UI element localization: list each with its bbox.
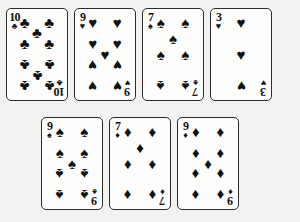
heart-pip-icon: ♥ bbox=[110, 15, 125, 30]
pip-field: ♠♠♠♠♠♠♠ bbox=[156, 14, 190, 95]
corner-index-top-left: 3♥ bbox=[213, 11, 224, 30]
spade-pip-icon: ♠ bbox=[153, 79, 168, 94]
playing-card-7-of-diamonds[interactable]: 7♦7♦♦♦♦♦♦♦♦ bbox=[109, 117, 171, 210]
spade-pip-icon: ♠ bbox=[52, 188, 67, 203]
diamond-pip-icon: ♦ bbox=[145, 124, 160, 139]
diamond-pip-icon: ♦ bbox=[188, 167, 203, 182]
diamond-pip-icon: ♦ bbox=[120, 156, 135, 171]
pip-field: ♠♠♠♠♠♠♠♠♠ bbox=[55, 123, 89, 204]
pip-field: ♦♦♦♦♦♦♦♦♦ bbox=[191, 123, 225, 204]
spade-pip-icon: ♠ bbox=[52, 124, 67, 139]
spade-pip-icon: ♠ bbox=[178, 47, 193, 62]
diamond-pip-icon: ♦ bbox=[133, 140, 148, 155]
spade-pip-icon: ♠ bbox=[178, 15, 193, 30]
pip-field: ♥♥♥ bbox=[224, 14, 258, 95]
diamond-pip-icon: ♦ bbox=[213, 124, 228, 139]
pip-field: ♣♣♣♣♣♣♣♣♣♣ bbox=[20, 14, 54, 95]
spade-pip-icon: ♠ bbox=[77, 188, 92, 203]
heart-pip-icon: ♥ bbox=[85, 79, 100, 94]
heart-icon: ♥ bbox=[213, 23, 224, 30]
diamond-pip-icon: ♦ bbox=[188, 188, 203, 203]
diamond-pip-icon: ♦ bbox=[213, 188, 228, 203]
card-row-bottom: 9♠9♠♠♠♠♠♠♠♠♠♠7♦7♦♦♦♦♦♦♦♦9♦9♦♦♦♦♦♦♦♦♦♦ bbox=[41, 117, 239, 210]
playing-card-9-of-diamonds[interactable]: 9♦9♦♦♦♦♦♦♦♦♦♦ bbox=[177, 117, 239, 210]
spade-pip-icon: ♠ bbox=[77, 124, 92, 139]
playing-card-10-of-clubs[interactable]: 10♣10♣♣♣♣♣♣♣♣♣♣♣ bbox=[6, 8, 68, 101]
heart-pip-icon: ♥ bbox=[110, 79, 125, 94]
heart-pip-icon: ♥ bbox=[234, 47, 249, 62]
card-row-top: 10♣10♣♣♣♣♣♣♣♣♣♣♣9♥9♥♥♥♥♥♥♥♥♥♥7♠7♠♠♠♠♠♠♠♠… bbox=[6, 8, 272, 101]
club-pip-icon: ♣ bbox=[17, 36, 32, 51]
playing-card-7-of-spades[interactable]: 7♠7♠♠♠♠♠♠♠♠ bbox=[142, 8, 204, 101]
pip-field: ♦♦♦♦♦♦♦ bbox=[123, 123, 157, 204]
corner-index-bottom-right: 3♥ bbox=[258, 79, 269, 98]
spade-pip-icon: ♠ bbox=[52, 167, 67, 182]
heart-pip-icon: ♥ bbox=[234, 15, 249, 30]
spade-pip-icon: ♠ bbox=[166, 31, 181, 46]
playing-card-9-of-hearts[interactable]: 9♥9♥♥♥♥♥♥♥♥♥♥ bbox=[74, 8, 136, 101]
diamond-pip-icon: ♦ bbox=[145, 188, 160, 203]
pip-field: ♥♥♥♥♥♥♥♥♥ bbox=[88, 14, 122, 95]
spade-pip-icon: ♠ bbox=[153, 15, 168, 30]
diamond-pip-icon: ♦ bbox=[145, 156, 160, 171]
heart-icon: ♥ bbox=[258, 79, 269, 86]
spade-pip-icon: ♠ bbox=[178, 79, 193, 94]
club-pip-icon: ♣ bbox=[42, 79, 57, 94]
heart-pip-icon: ♥ bbox=[110, 58, 125, 73]
club-pip-icon: ♣ bbox=[42, 36, 57, 51]
heart-pip-icon: ♥ bbox=[85, 58, 100, 73]
playing-card-9-of-spades[interactable]: 9♠9♠♠♠♠♠♠♠♠♠♠ bbox=[41, 117, 103, 210]
spade-pip-icon: ♠ bbox=[77, 167, 92, 182]
diamond-pip-icon: ♦ bbox=[213, 167, 228, 182]
diamond-pip-icon: ♦ bbox=[120, 124, 135, 139]
club-pip-icon: ♣ bbox=[17, 79, 32, 94]
heart-pip-icon: ♥ bbox=[85, 15, 100, 30]
heart-pip-icon: ♥ bbox=[234, 79, 249, 94]
spade-pip-icon: ♠ bbox=[153, 47, 168, 62]
playing-card-3-of-hearts[interactable]: 3♥3♥♥♥♥ bbox=[210, 8, 272, 101]
diamond-pip-icon: ♦ bbox=[120, 188, 135, 203]
diamond-pip-icon: ♦ bbox=[188, 124, 203, 139]
